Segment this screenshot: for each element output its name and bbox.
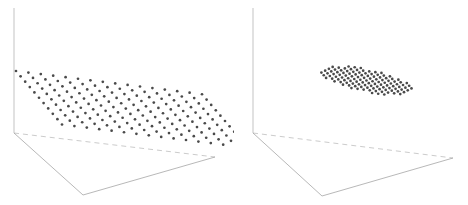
data-point[interactable]: [393, 80, 396, 83]
data-point[interactable]: [56, 118, 59, 121]
data-point[interactable]: [132, 103, 135, 106]
data-point[interactable]: [69, 81, 72, 84]
data-point[interactable]: [399, 81, 402, 84]
data-point[interactable]: [162, 112, 165, 115]
data-point[interactable]: [328, 67, 331, 70]
data-point[interactable]: [123, 93, 126, 96]
data-point[interactable]: [33, 91, 36, 94]
data-point[interactable]: [201, 93, 204, 96]
data-point[interactable]: [219, 114, 222, 117]
data-point[interactable]: [51, 112, 54, 115]
data-point[interactable]: [38, 96, 41, 99]
data-point[interactable]: [214, 109, 217, 112]
data-point[interactable]: [333, 80, 336, 83]
data-point[interactable]: [325, 77, 328, 80]
data-point[interactable]: [341, 76, 344, 79]
data-point[interactable]: [379, 76, 382, 79]
data-point[interactable]: [217, 138, 220, 141]
data-point[interactable]: [81, 121, 84, 124]
data-point[interactable]: [135, 94, 138, 97]
data-point[interactable]: [380, 83, 383, 86]
data-point[interactable]: [61, 85, 64, 88]
data-point[interactable]: [92, 108, 95, 111]
data-point[interactable]: [86, 88, 89, 91]
data-point[interactable]: [112, 106, 115, 109]
data-point[interactable]: [398, 86, 401, 89]
data-point[interactable]: [377, 92, 380, 95]
data-point[interactable]: [171, 123, 174, 126]
data-point[interactable]: [156, 92, 159, 95]
data-point[interactable]: [163, 126, 166, 129]
data-point[interactable]: [390, 82, 393, 85]
data-point[interactable]: [128, 98, 131, 101]
data-point[interactable]: [387, 91, 390, 94]
data-point[interactable]: [358, 71, 361, 74]
data-point[interactable]: [39, 73, 42, 76]
data-point[interactable]: [350, 87, 353, 90]
scatter-panel-left[interactable]: [0, 0, 234, 205]
data-point[interactable]: [155, 130, 158, 133]
data-point[interactable]: [50, 98, 53, 101]
data-point[interactable]: [121, 116, 124, 119]
data-point[interactable]: [367, 82, 370, 85]
data-point[interactable]: [64, 114, 67, 117]
data-point[interactable]: [160, 136, 163, 139]
data-point[interactable]: [98, 90, 101, 93]
data-point[interactable]: [61, 123, 64, 126]
data-point[interactable]: [32, 77, 35, 80]
data-point[interactable]: [387, 80, 390, 83]
data-point[interactable]: [126, 122, 129, 125]
data-point[interactable]: [355, 80, 358, 83]
data-point[interactable]: [134, 118, 137, 121]
data-point[interactable]: [353, 78, 356, 81]
data-point[interactable]: [59, 109, 62, 112]
data-point[interactable]: [110, 129, 113, 132]
data-point[interactable]: [185, 139, 188, 142]
data-point[interactable]: [87, 103, 90, 106]
data-point[interactable]: [192, 135, 195, 138]
data-point[interactable]: [356, 69, 359, 72]
data-point[interactable]: [154, 116, 157, 119]
data-point[interactable]: [202, 107, 205, 110]
data-point[interactable]: [368, 89, 371, 92]
data-point[interactable]: [210, 104, 213, 107]
data-point[interactable]: [96, 113, 99, 116]
data-point[interactable]: [340, 69, 343, 72]
data-point[interactable]: [374, 71, 377, 74]
data-point[interactable]: [75, 101, 78, 104]
data-point[interactable]: [42, 102, 45, 105]
data-point[interactable]: [365, 79, 368, 82]
scatter-panel-right[interactable]: [234, 0, 468, 205]
data-point[interactable]: [148, 96, 151, 99]
data-point[interactable]: [363, 77, 366, 80]
data-point[interactable]: [364, 72, 367, 75]
data-point[interactable]: [207, 113, 210, 116]
data-point[interactable]: [362, 69, 365, 72]
data-point[interactable]: [385, 77, 388, 80]
data-point[interactable]: [391, 78, 394, 81]
data-point[interactable]: [359, 78, 362, 81]
data-point[interactable]: [368, 70, 371, 73]
data-point[interactable]: [79, 106, 82, 109]
data-point[interactable]: [101, 81, 104, 84]
data-point[interactable]: [98, 128, 101, 131]
data-point[interactable]: [160, 97, 163, 100]
data-point[interactable]: [190, 106, 193, 109]
data-point[interactable]: [113, 120, 116, 123]
data-point[interactable]: [145, 105, 148, 108]
data-point[interactable]: [342, 72, 345, 75]
data-point[interactable]: [117, 111, 120, 114]
data-point[interactable]: [111, 91, 114, 94]
data-point[interactable]: [76, 116, 79, 119]
data-point[interactable]: [140, 100, 143, 103]
data-point[interactable]: [405, 82, 408, 85]
data-point[interactable]: [400, 88, 403, 91]
data-point[interactable]: [373, 75, 376, 78]
data-point[interactable]: [329, 75, 332, 78]
data-point[interactable]: [349, 80, 352, 83]
data-point[interactable]: [350, 68, 353, 71]
data-point[interactable]: [166, 117, 169, 120]
data-point[interactable]: [179, 119, 182, 122]
data-point[interactable]: [353, 66, 356, 69]
data-point[interactable]: [152, 101, 155, 104]
